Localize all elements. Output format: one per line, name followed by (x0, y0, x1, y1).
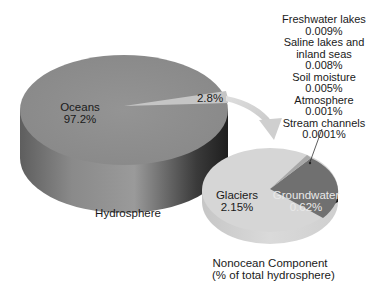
glaciers-label: Glaciers 2.15% (212, 189, 262, 213)
oceans-value: 97.2% (52, 113, 108, 125)
oceans-label: Oceans 97.2% (52, 101, 108, 125)
nonocean-slice-label: 2.8% (193, 92, 227, 104)
oceans-name: Oceans (52, 101, 108, 113)
hydrosphere-pie (20, 55, 228, 213)
nonocean-title: Nonocean Component (% of total hydrosphe… (212, 257, 328, 281)
minor-components-label: Freshwater lakes 0.009% Saline lakes and… (280, 14, 368, 141)
arrow-icon (226, 96, 282, 140)
hydrosphere-title: Hydrosphere (90, 207, 166, 219)
groundwater-label: Groundwater 0.62% (271, 189, 341, 213)
